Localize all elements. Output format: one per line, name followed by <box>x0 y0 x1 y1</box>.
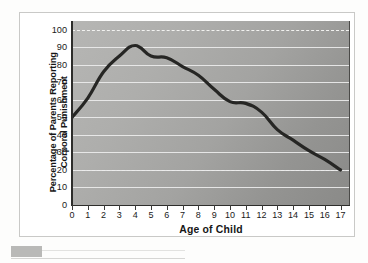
y-tick-label-30: 30 <box>43 147 67 157</box>
y-tick-label-100: 100 <box>43 25 67 35</box>
y-tick-label-60: 60 <box>43 95 67 105</box>
x-tick-label-14: 14 <box>285 210 301 220</box>
x-tick-label-4: 4 <box>127 210 143 220</box>
series-path <box>72 46 341 170</box>
x-axis-title: Age of Child <box>72 224 350 235</box>
y-tick-label-0: 0 <box>43 200 67 210</box>
caption-rule-secondary <box>11 258 185 259</box>
x-tick-label-16: 16 <box>317 210 333 220</box>
y-tick-label-20: 20 <box>43 165 67 175</box>
caption-rule <box>42 250 185 251</box>
x-tick-label-10: 10 <box>222 210 238 220</box>
x-tick-label-11: 11 <box>238 210 254 220</box>
x-tick-label-13: 13 <box>269 210 285 220</box>
x-tick-label-8: 8 <box>190 210 206 220</box>
y-tick-label-90: 90 <box>43 42 67 52</box>
x-tick-label-12: 12 <box>254 210 270 220</box>
x-tick-label-0: 0 <box>64 210 80 220</box>
y-tick-label-10: 10 <box>43 182 67 192</box>
x-tick-label-9: 9 <box>206 210 222 220</box>
y-axis-tick-labels: 0102030405060708090100 <box>41 21 67 205</box>
y-tick-label-70: 70 <box>43 77 67 87</box>
x-tick-label-5: 5 <box>143 210 159 220</box>
y-tick-label-40: 40 <box>43 130 67 140</box>
x-tick-label-17: 17 <box>333 210 349 220</box>
y-axis-line <box>71 21 73 206</box>
x-tick-label-2: 2 <box>96 210 112 220</box>
x-tick-label-3: 3 <box>111 210 127 220</box>
caption-swatch <box>11 246 42 257</box>
y-tick-label-50: 50 <box>43 112 67 122</box>
data-series-line <box>72 21 350 205</box>
x-axis-tick-labels: 01234567891011121314151617 <box>72 210 350 223</box>
y-tick-label-80: 80 <box>43 60 67 70</box>
x-tick-label-15: 15 <box>301 210 317 220</box>
x-tick-label-1: 1 <box>80 210 96 220</box>
figure-chart-corporal-punishment: Percentage of Parents Reporting Corporal… <box>0 0 368 263</box>
x-tick-label-7: 7 <box>175 210 191 220</box>
plot-area <box>72 21 350 205</box>
x-tick-label-6: 6 <box>159 210 175 220</box>
